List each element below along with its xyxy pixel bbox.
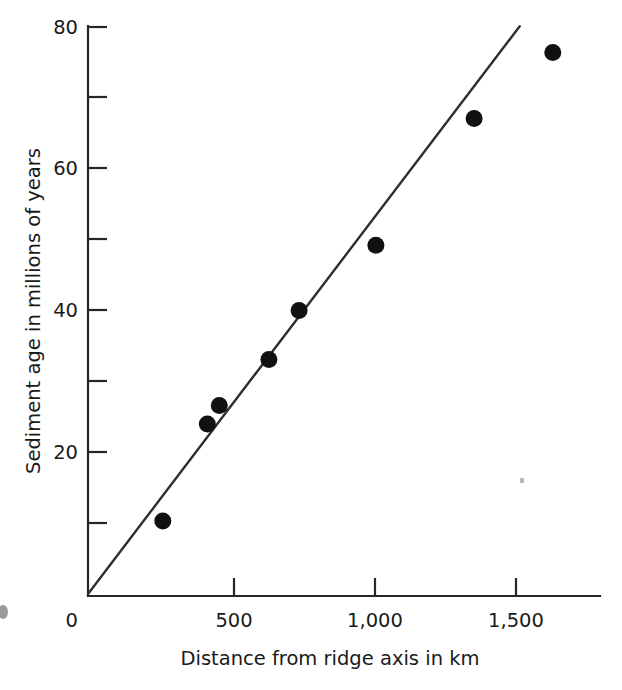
page-artifact-mark [0,605,8,619]
data-point [466,110,483,127]
data-points-group [154,44,561,530]
x-tick-label-500: 500 [215,609,252,632]
x-axis-tick-labels: 500 1,000 1,500 [215,609,544,632]
y-tick-label-20: 20 [53,441,78,464]
data-point [260,351,277,368]
data-point [291,302,308,319]
y-axis-title: Sediment age in millions of years [22,148,45,474]
x-axis-ticks [234,578,516,596]
data-point [199,415,216,432]
x-tick-label-1000: 1,000 [347,609,403,632]
y-tick-label-0: 0 [66,609,78,632]
y-axis-tick-labels: 80 60 40 20 0 [53,16,78,632]
chart-figure: 80 60 40 20 0 500 1,000 1,500 Sediment a… [0,0,622,690]
scatter-plot: 80 60 40 20 0 500 1,000 1,500 Sediment a… [0,0,622,690]
y-tick-label-80: 80 [53,16,78,39]
x-axis-title: Distance from ridge axis in km [181,647,480,670]
y-tick-label-40: 40 [53,299,78,322]
data-point [544,44,561,61]
data-point [211,397,228,414]
y-tick-label-60: 60 [53,157,78,180]
x-tick-label-1500: 1,500 [488,609,544,632]
data-point [367,237,384,254]
y-axis-ticks [88,27,107,523]
page-artifact-speck [520,478,524,483]
data-point [154,513,171,530]
